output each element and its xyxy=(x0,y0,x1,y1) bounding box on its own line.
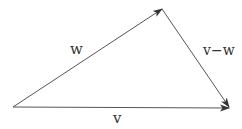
label-v-minus-w: v−w xyxy=(203,43,235,58)
label-w: w xyxy=(70,42,83,57)
vector-v-arrow xyxy=(13,107,229,108)
vector-diagram: w v v−w xyxy=(0,0,242,129)
vector-w-arrow xyxy=(13,9,162,107)
vector-v-minus-w-arrow xyxy=(162,9,229,107)
vector-arrows xyxy=(0,0,242,129)
label-v: v xyxy=(113,111,121,126)
